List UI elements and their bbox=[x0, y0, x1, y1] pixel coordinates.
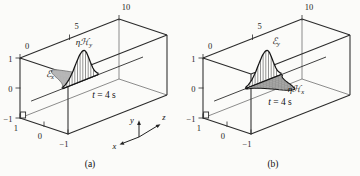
y-tick-label: 1 bbox=[8, 54, 12, 64]
corner-right-angle-marker bbox=[21, 112, 26, 118]
box-edge bbox=[203, 58, 251, 74]
panel-b: 0 5 10 1 0 −1 1 0 −1 ℰy ηℋx t = 4 s (b) bbox=[186, 2, 350, 171]
y-axis-label: y bbox=[129, 115, 134, 125]
box-edge-hidden bbox=[119, 79, 167, 95]
panel-a: 0 5 10 1 0 −1 1 0 −1 ℰx ηℋy t = 4 s (a) bbox=[3, 2, 167, 171]
corner-right-angle-marker bbox=[204, 112, 209, 118]
h-field-label: ηℋy bbox=[76, 37, 92, 48]
time-label: t = 4 s bbox=[268, 97, 292, 107]
z-tick-label: 5 bbox=[74, 21, 78, 31]
y-tick-label: 1 bbox=[191, 54, 195, 64]
x-tick-label: 1 bbox=[197, 123, 201, 133]
y-axis-arrowhead bbox=[137, 120, 141, 125]
box-edge bbox=[251, 95, 350, 134]
z-tick-label: 10 bbox=[305, 2, 314, 12]
z-tick-label: 0 bbox=[208, 41, 212, 51]
z-tick-label: 5 bbox=[257, 21, 261, 31]
box-edge bbox=[119, 19, 167, 35]
h-field-label: ηℋx bbox=[288, 84, 304, 95]
y-tick-label: 0 bbox=[191, 84, 195, 94]
box-b-geometry bbox=[199, 15, 351, 135]
y-tick-label: −1 bbox=[3, 114, 12, 124]
box-a-geometry bbox=[16, 15, 168, 135]
figure-canvas: 0 5 10 1 0 −1 1 0 −1 ℰx ηℋy t = 4 s (a) … bbox=[0, 0, 360, 176]
h-field-pulse-fill bbox=[63, 50, 98, 88]
axis-triad: y z x bbox=[112, 112, 167, 151]
e-field-label: ℰy bbox=[272, 36, 280, 47]
x-tick-label: 0 bbox=[221, 131, 225, 141]
x-axis-arrowhead bbox=[120, 141, 125, 145]
box-edge bbox=[68, 95, 167, 134]
time-label: t = 4 s bbox=[92, 90, 116, 100]
x-tick-label: 1 bbox=[14, 123, 18, 133]
x-tick-label: −1 bbox=[242, 139, 251, 149]
panel-b-caption: (b) bbox=[267, 159, 278, 170]
panel-a-caption: (a) bbox=[85, 159, 96, 170]
z-tick-label: 0 bbox=[25, 41, 29, 51]
y-tick-label: 0 bbox=[8, 84, 12, 94]
z-axis-label: z bbox=[161, 112, 166, 122]
y-tick-label: −1 bbox=[186, 114, 195, 124]
x-tick-label: −1 bbox=[59, 139, 68, 149]
x-axis-arrow bbox=[124, 137, 140, 143]
box-edge-hidden bbox=[302, 79, 350, 95]
z-axis-arrow bbox=[139, 126, 158, 137]
box-edge bbox=[302, 19, 350, 35]
wave-pulse-figure: 0 5 10 1 0 −1 1 0 −1 ℰx ηℋy t = 4 s (a) … bbox=[0, 0, 360, 176]
x-tick-label: 0 bbox=[38, 131, 42, 141]
z-tick-label: 10 bbox=[122, 2, 131, 12]
x-axis-label: x bbox=[112, 141, 117, 151]
